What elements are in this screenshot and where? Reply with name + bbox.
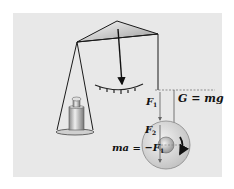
weight-mass (69, 97, 84, 130)
balance-diagram: G = mg F1 F2 ma = −F1 (0, 0, 234, 189)
force-f1-label: F1 (145, 96, 157, 108)
inertial-force-label: ma = −F1 (112, 142, 164, 154)
gravity-label: G = mg (178, 92, 224, 105)
scale-arc (95, 84, 143, 94)
